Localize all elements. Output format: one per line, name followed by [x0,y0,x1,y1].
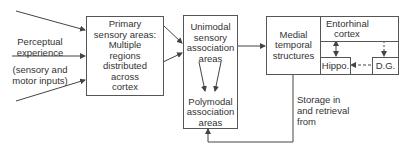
dg-label: D.G. [376,61,396,72]
input-label-line3: (sensory and [8,64,72,75]
storage-retrieval-label: Storage in and retrieval from [297,94,349,127]
storage-line: and retrieval [297,105,349,116]
unimodal-line: association [187,43,235,54]
polymodal-line: association [187,107,235,118]
storage-line: Storage in [297,94,349,105]
dentate-gyrus-box: D.G. [372,57,399,75]
hippo-label: Hippo. [322,61,349,72]
input-label-line4: motor inputs) [8,75,72,86]
input-label: Perceptual experience (sensory and motor… [8,36,72,86]
unimodal-line: Unimodal [190,22,230,33]
storage-line: from [297,116,349,127]
unimodal-line: areas [199,54,223,65]
polymodal-line: areas [199,118,223,129]
medial-temporal-box: Medial temporal structures [266,16,321,75]
medial-line: structures [273,51,315,62]
association-box: Unimodal sensory association areas Polym… [183,15,238,129]
primary-sensory-box: Primary sensory areas: Multiple regions … [86,16,164,96]
primary-to-association-arrow-2 [163,53,182,62]
entorhinal-cortex-box: Entorhinal cortex [320,16,399,42]
input-arrow-top [16,11,85,30]
hippocampus-box: Hippo. [320,57,351,75]
input-label-line2: experience [8,47,72,58]
entorhinal-line: cortex [326,29,360,40]
input-label-line1: Perceptual [8,36,72,47]
primary-to-association-arrow-1 [163,25,182,43]
primary-line: cortex [112,82,138,93]
